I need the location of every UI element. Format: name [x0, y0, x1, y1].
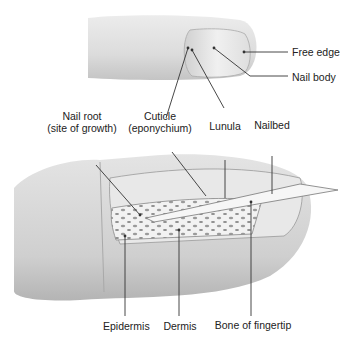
nail-root-line2: (site of growth) — [46, 122, 118, 134]
label-dermis: Dermis — [162, 320, 198, 332]
label-nail-root: Nail root (site of growth) — [46, 110, 118, 134]
label-cuticle: Cuticle (eponychium) — [128, 110, 192, 134]
label-lunula: Lunula — [206, 120, 244, 132]
label-free-edge: Free edge — [292, 46, 340, 58]
cuticle-line2: (eponychium) — [128, 122, 192, 134]
top-view-finger — [88, 15, 257, 80]
label-nailbed: Nailbed — [254, 119, 290, 131]
section-finger — [14, 154, 338, 300]
nail-root-line1: Nail root — [46, 110, 118, 122]
label-epidermis: Epidermis — [103, 320, 149, 332]
cuticle-line1: Cuticle — [128, 110, 192, 122]
label-bone: Bone of fingertip — [212, 319, 294, 331]
label-nail-body: Nail body — [292, 71, 336, 83]
